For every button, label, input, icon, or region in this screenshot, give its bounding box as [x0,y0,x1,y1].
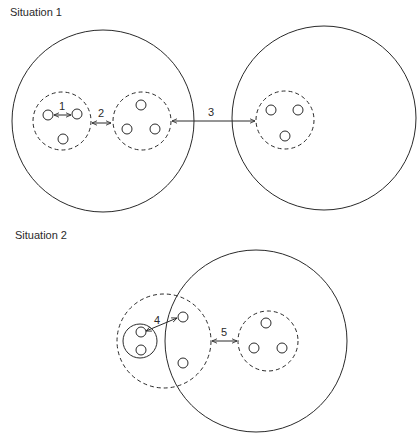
member-circle [178,358,188,368]
member-circle [58,134,68,144]
member-circle [249,343,259,353]
large-circle-right [232,26,416,210]
situation-1-diagram: 1 2 3 [12,26,416,212]
dashed-group-b [113,92,171,150]
member-circle [122,124,132,134]
member-circle [280,131,290,141]
member-circle [293,105,303,115]
member-circle [261,318,271,328]
distance-label-2: 2 [98,107,104,119]
solid-subgroup-e [123,324,157,358]
dashed-group-c [256,91,314,149]
member-circle [277,343,287,353]
distance-label-5: 5 [221,326,227,338]
member-circle [150,124,160,134]
member-circle [178,312,188,322]
situation-2-diagram: 4 5 [117,250,347,432]
large-circle [165,250,347,432]
member-circle [136,100,146,110]
diagram-canvas: 1 2 3 4 5 [0,0,420,447]
dashed-group-d [117,294,211,388]
distance-arrow-4 [146,318,177,331]
large-circle-left [12,30,194,212]
member-circle [266,105,276,115]
member-circle [43,110,53,120]
member-circle [136,327,146,337]
distance-label-3: 3 [208,106,214,118]
distance-label-1: 1 [59,100,65,112]
dashed-group-f [238,311,298,371]
distance-label-4: 4 [154,314,160,326]
member-circle [72,109,82,119]
member-circle [136,345,146,355]
